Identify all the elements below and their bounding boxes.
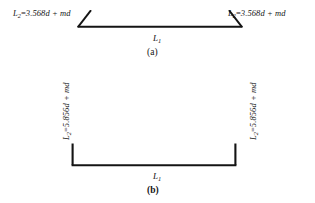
panel-b-label-right: L2=5.856d + md (249, 82, 259, 140)
panel-b-label-right-subscript: 2 (252, 132, 259, 135)
panel-b-label-left-relation: = (61, 127, 71, 132)
panel-a-bracket (60, 10, 260, 36)
panel-a-caption: (a) (147, 48, 158, 58)
panel-b-bracket (60, 136, 250, 172)
panel-b-label-left-subscript: 2 (65, 132, 72, 135)
figure-root: L2=3.568d + md L2=3.568d + md L1 (a) L2=… (0, 0, 315, 203)
panel-b-dimension-subscript: 1 (158, 175, 161, 182)
panel-b-caption: (b) (147, 186, 159, 196)
panel-a-dimension-label: L1 (153, 34, 161, 44)
panel-b-dimension-label: L1 (153, 172, 161, 182)
panel-b-label-right-relation: = (248, 127, 258, 132)
panel-b-label-left: L2=5.856d + md (62, 82, 72, 140)
panel-a-dimension-subscript: 1 (158, 37, 161, 44)
panel-a-right-arm (230, 11, 242, 26)
panel-b-label-right-expression: 5.856d + md (248, 82, 258, 127)
panel-a-left-arm (79, 11, 91, 26)
panel-b-label-left-expression: 5.856d + md (61, 82, 71, 127)
